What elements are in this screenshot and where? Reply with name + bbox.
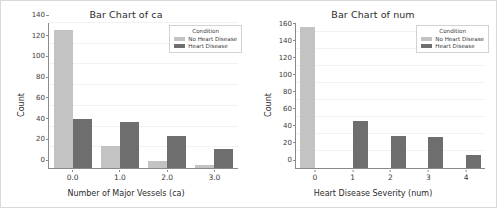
bar-chart-ca-figure: Bar Chart of ca Count 020406080100120140… bbox=[4, 5, 248, 205]
y-axis-tick-label: 120 bbox=[32, 32, 45, 40]
y-axis-tick-label: 140 bbox=[279, 37, 292, 45]
y-axis-tick-label: 160 bbox=[279, 20, 292, 28]
bar bbox=[300, 27, 315, 168]
grid-line bbox=[296, 116, 485, 117]
y-axis-tick-label: 0 bbox=[288, 156, 292, 164]
legend-num: Condition No Heart Disease Heart Disease bbox=[416, 25, 489, 53]
chart-title-num: Bar Chart of num bbox=[251, 9, 495, 20]
legend-label-no-heart-disease: No Heart Disease bbox=[188, 36, 237, 42]
y-axis-tick-label: 80 bbox=[283, 88, 292, 96]
x-axis-tick-label: 3.0 bbox=[208, 173, 220, 182]
legend-label-no-heart-disease: No Heart Disease bbox=[435, 36, 484, 42]
grid-line bbox=[49, 63, 238, 64]
bar bbox=[73, 119, 92, 168]
x-axis-tick-label: 4 bbox=[464, 173, 469, 182]
y-axis-tick-label: 60 bbox=[283, 105, 292, 113]
bar bbox=[214, 149, 233, 168]
legend-ca: Condition No Heart Disease Heart Disease bbox=[169, 25, 242, 53]
grid-line bbox=[296, 99, 485, 100]
y-axis-tick-label: 80 bbox=[36, 73, 45, 81]
bar bbox=[391, 136, 406, 168]
bar bbox=[101, 146, 120, 168]
legend-swatch-heart-disease bbox=[421, 44, 432, 48]
legend-title-ca: Condition bbox=[174, 28, 237, 34]
x-axis-tick-label: 1 bbox=[350, 173, 355, 182]
bar bbox=[54, 30, 73, 168]
legend-label-heart-disease: Heart Disease bbox=[435, 43, 474, 49]
x-axis-label-ca: Number of Major Vessels (ca) bbox=[4, 189, 248, 198]
x-axis-tick-label: 3 bbox=[426, 173, 431, 182]
y-axis-tick-label: 100 bbox=[279, 71, 292, 79]
x-axis-tick-label: 2 bbox=[388, 173, 393, 182]
legend-swatch-no-heart-disease bbox=[174, 37, 185, 41]
y-axis-tick-label: 40 bbox=[36, 115, 45, 123]
y-axis-tick-label: 60 bbox=[36, 94, 45, 102]
legend-swatch-no-heart-disease bbox=[421, 37, 432, 41]
x-axis-tick-label: 1.0 bbox=[114, 173, 126, 182]
y-axis-tick-label: 20 bbox=[36, 135, 45, 143]
legend-label-heart-disease: Heart Disease bbox=[188, 43, 227, 49]
x-axis-tick-label: 0 bbox=[313, 173, 318, 182]
bar bbox=[353, 121, 368, 168]
y-axis-tick-label: 140 bbox=[32, 11, 45, 19]
y-axis-tick-label: 40 bbox=[283, 122, 292, 130]
bar bbox=[466, 155, 481, 168]
bar bbox=[195, 165, 214, 168]
x-axis-label-num: Heart Disease Severity (num) bbox=[251, 189, 495, 198]
grid-line bbox=[49, 84, 238, 85]
bar bbox=[167, 136, 186, 168]
y-axis-tick-label: 100 bbox=[32, 52, 45, 60]
bar bbox=[428, 137, 443, 168]
y-axis-tick-label: 20 bbox=[283, 139, 292, 147]
bar bbox=[148, 161, 167, 168]
x-axis-tick-label: 0.0 bbox=[67, 173, 79, 182]
bar-chart-num-figure: Bar Chart of num Count 02040608010012014… bbox=[251, 5, 495, 205]
legend-item-no-heart-disease: No Heart Disease bbox=[174, 36, 237, 42]
grid-line bbox=[49, 105, 238, 106]
grid-line bbox=[296, 82, 485, 83]
y-axis-label-ca: Count bbox=[17, 93, 26, 117]
legend-title-num: Condition bbox=[421, 28, 484, 34]
x-axis-tick-label: 2.0 bbox=[161, 173, 173, 182]
y-axis-label-num: Count bbox=[264, 93, 273, 117]
grid-line bbox=[296, 133, 485, 134]
legend-item-heart-disease: Heart Disease bbox=[421, 43, 484, 49]
legend-item-heart-disease: Heart Disease bbox=[174, 43, 237, 49]
legend-swatch-heart-disease bbox=[174, 44, 185, 48]
grid-line bbox=[296, 65, 485, 66]
legend-item-no-heart-disease: No Heart Disease bbox=[421, 36, 484, 42]
figure-frame: Bar Chart of ca Count 020406080100120140… bbox=[0, 0, 497, 208]
bar bbox=[120, 122, 139, 168]
y-axis-tick-label: 120 bbox=[279, 54, 292, 62]
grid-line bbox=[49, 22, 238, 23]
y-axis-tick-label: 0 bbox=[41, 156, 45, 164]
